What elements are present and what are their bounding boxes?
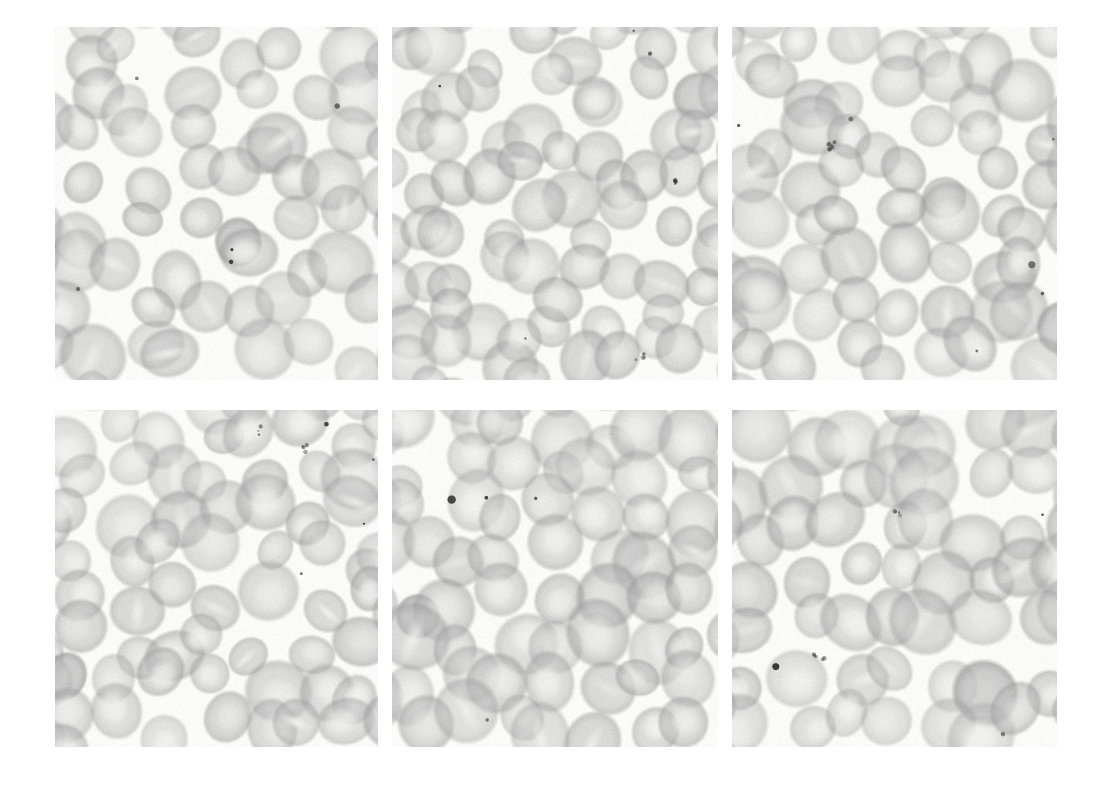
micrograph-panel-2 bbox=[392, 27, 718, 380]
micrograph-image-1 bbox=[55, 27, 378, 380]
micrograph-image-3 bbox=[732, 27, 1057, 380]
micrograph-image-2 bbox=[392, 27, 718, 380]
micrograph-image-5 bbox=[392, 410, 718, 747]
micrograph-panel-3 bbox=[732, 27, 1057, 380]
micrograph-image-6 bbox=[732, 410, 1057, 747]
micrograph-panel-5 bbox=[392, 410, 718, 747]
micrograph-panel-1 bbox=[55, 27, 378, 380]
micrograph-image-4 bbox=[55, 410, 378, 747]
micrograph-panel-4 bbox=[55, 410, 378, 747]
figure-root bbox=[0, 0, 1110, 792]
micrograph-panel-6 bbox=[732, 410, 1057, 747]
